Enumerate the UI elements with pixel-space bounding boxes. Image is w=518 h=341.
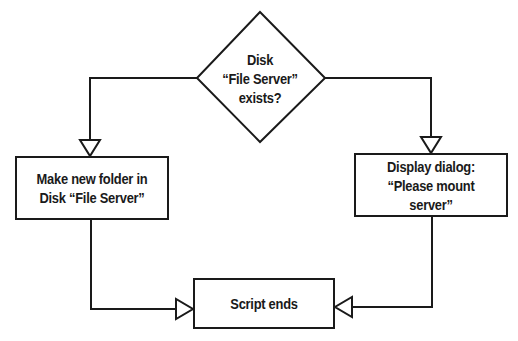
make-folder-line-2: Disk “File Server”: [39, 188, 144, 207]
connector-display-dialog-to-script-ends: [352, 216, 432, 307]
arrowhead-right-icon: [176, 299, 193, 319]
make-folder-line-1: Make new folder in: [37, 169, 148, 188]
display-dialog-label: Display dialog: “Please mount server”: [365, 153, 497, 217]
decision-line-1: Disk: [247, 50, 273, 69]
script-ends-line-1: Script ends: [230, 294, 297, 313]
arrowhead-left-icon: [335, 297, 352, 317]
decision-label: Disk “File Server” exists?: [208, 44, 311, 112]
display-dialog-line-2: “Please mount server”: [365, 176, 497, 214]
arrowhead-down-icon: [421, 137, 441, 153]
display-dialog-line-1: Display dialog:: [387, 157, 475, 176]
script-ends-label: Script ends: [203, 278, 325, 329]
connector-decision-to-display-dialog: [325, 78, 431, 137]
make-folder-label: Make new folder in Disk “File Server”: [26, 156, 158, 220]
connector-decision-to-make-folder: [90, 78, 197, 140]
decision-line-2: “File Server”: [222, 69, 298, 88]
arrowhead-down-icon: [80, 140, 100, 156]
decision-line-3: exists?: [239, 88, 282, 107]
connector-make-folder-to-script-ends: [91, 219, 176, 309]
